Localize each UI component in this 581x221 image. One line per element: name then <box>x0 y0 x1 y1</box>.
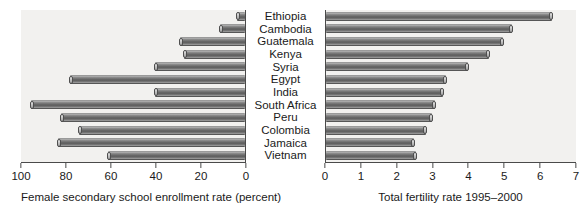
category-label-india: India <box>248 86 323 99</box>
axis-tick <box>324 163 325 168</box>
bar-kenya <box>184 50 245 59</box>
right-axis-title: Total fertility rate 1995–2000 <box>325 190 576 204</box>
bar-colombia <box>79 126 246 135</box>
bar-row <box>21 35 245 48</box>
bar-vietnam <box>326 151 416 160</box>
category-label-colombia: Colombia <box>248 124 323 137</box>
category-label-south-africa: South Africa <box>248 99 323 112</box>
bar-vietnam <box>108 151 245 160</box>
bar-row <box>21 124 245 137</box>
axis-tick <box>155 163 156 168</box>
bar-row <box>21 86 245 99</box>
category-label-kenya: Kenya <box>248 48 323 61</box>
bar-row <box>326 99 576 112</box>
axis-tick <box>396 163 397 168</box>
axis-tick <box>360 163 361 168</box>
right-x-tick-labels: 01234567 <box>325 170 576 185</box>
axis-tick-label: 5 <box>501 170 507 183</box>
axis-tick-label: 100 <box>11 170 30 183</box>
category-label-peru: Peru <box>248 111 323 124</box>
axis-tick-label: 7 <box>573 170 579 183</box>
category-label-ethiopia: Ethiopia <box>248 10 323 23</box>
axis-tick-label: 20 <box>195 170 208 183</box>
bar-kenya <box>326 50 489 59</box>
left-chart-panel: 100806040200 <box>21 10 246 185</box>
bar-row <box>21 10 245 23</box>
category-label-column: EthiopiaCambodiaGuatemalaKenyaSyriaEgypt… <box>248 10 323 162</box>
bar-row <box>326 48 576 61</box>
category-label-guatemala: Guatemala <box>248 35 323 48</box>
axis-tick <box>432 163 433 168</box>
bar-row <box>326 149 576 162</box>
category-label-cambodia: Cambodia <box>248 23 323 36</box>
left-x-tick-labels: 100806040200 <box>21 170 246 185</box>
bar-colombia <box>326 126 426 135</box>
axis-tick-label: 60 <box>105 170 118 183</box>
bar-south-africa <box>326 100 435 109</box>
bar-row <box>326 10 576 23</box>
category-label-syria: Syria <box>248 61 323 74</box>
bar-row <box>21 61 245 74</box>
bar-guatemala <box>326 37 503 46</box>
axis-tick-label: 2 <box>394 170 400 183</box>
bar-south-africa <box>31 100 245 109</box>
bar-row <box>21 23 245 36</box>
bar-peru <box>326 113 432 122</box>
bar-row <box>326 124 576 137</box>
bar-syria <box>155 62 245 71</box>
axis-tick <box>245 163 246 168</box>
bar-ethiopia <box>326 12 552 21</box>
axis-tick <box>468 163 469 168</box>
category-label-egypt: Egypt <box>248 73 323 86</box>
bar-jamaica <box>326 138 414 147</box>
axis-tick-label: 40 <box>150 170 163 183</box>
bar-cambodia <box>220 24 245 33</box>
right-chart-panel: 01234567 <box>325 10 576 185</box>
bar-ethiopia <box>237 12 245 21</box>
left-plot-area <box>21 10 246 162</box>
axis-tick-label: 6 <box>537 170 543 183</box>
bar-peru <box>61 113 246 122</box>
bar-india <box>155 88 245 97</box>
axis-tick <box>539 163 540 168</box>
axis-tick <box>575 163 576 168</box>
bar-row <box>326 73 576 86</box>
bar-row <box>326 111 576 124</box>
axis-tick <box>65 163 66 168</box>
bar-row <box>21 73 245 86</box>
bar-row <box>326 23 576 36</box>
bar-guatemala <box>180 37 245 46</box>
bar-row <box>326 137 576 150</box>
axis-tick-label: 0 <box>322 170 328 183</box>
paired-bar-chart-figure: 100806040200 EthiopiaCambodiaGuatemalaKe… <box>0 0 581 221</box>
bar-row <box>21 111 245 124</box>
bar-row <box>326 61 576 74</box>
bar-jamaica <box>58 138 245 147</box>
bar-row <box>326 86 576 99</box>
bar-row <box>326 35 576 48</box>
bar-row <box>21 48 245 61</box>
axis-tick-label: 80 <box>60 170 73 183</box>
axis-tick <box>504 163 505 168</box>
axis-tick-label: 4 <box>465 170 471 183</box>
right-plot-area <box>325 10 576 162</box>
axis-tick-label: 0 <box>243 170 249 183</box>
bar-india <box>326 88 443 97</box>
bar-row <box>21 149 245 162</box>
bar-egypt <box>326 75 446 84</box>
left-axis-title: Female secondary school enrollment rate … <box>21 190 246 204</box>
axis-tick-label: 3 <box>429 170 435 183</box>
category-label-vietnam: Vietnam <box>248 149 323 162</box>
category-label-jamaica: Jamaica <box>248 137 323 150</box>
axis-tick <box>20 163 21 168</box>
axis-tick-label: 1 <box>358 170 364 183</box>
axis-tick <box>110 163 111 168</box>
axis-tick <box>200 163 201 168</box>
bar-egypt <box>70 75 246 84</box>
bar-cambodia <box>326 24 512 33</box>
bar-syria <box>326 62 468 71</box>
bar-row <box>21 99 245 112</box>
left-x-axis <box>21 162 246 169</box>
bar-row <box>21 137 245 150</box>
right-x-axis <box>325 162 576 169</box>
